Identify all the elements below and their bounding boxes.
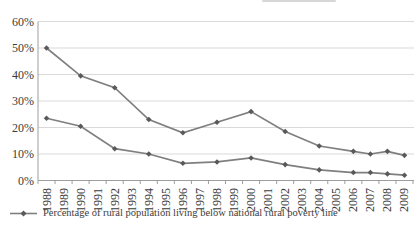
x-tick-label: 2007 xyxy=(363,188,377,212)
gridlines xyxy=(38,22,414,155)
data-point-marker xyxy=(351,170,357,176)
data-point-marker xyxy=(180,160,186,166)
x-tick-label: 2008 xyxy=(380,188,394,212)
data-point-marker xyxy=(248,155,254,161)
y-tick-label: 10% xyxy=(12,147,34,161)
legend-label: Percentage of rural population living be… xyxy=(43,206,338,220)
chart-screenshot: 0%10%20%30%40%50%60%19881989199019911992… xyxy=(0,0,420,226)
data-point-marker xyxy=(402,153,408,159)
data-point-marker xyxy=(282,162,288,168)
data-point-marker xyxy=(146,151,152,157)
data-point-marker xyxy=(44,115,50,121)
data-point-marker xyxy=(368,151,374,157)
series-upper xyxy=(44,45,408,158)
y-tick-label: 50% xyxy=(12,41,34,55)
data-point-marker xyxy=(385,171,391,177)
data-point-marker xyxy=(316,143,322,149)
y-axis-labels: 0%10%20%30%40%50%60% xyxy=(12,15,34,188)
x-tick-label: 2009 xyxy=(397,188,411,212)
x-tick-label: 2006 xyxy=(346,188,360,212)
series-line xyxy=(47,118,405,175)
data-point-marker xyxy=(402,172,408,178)
data-point-marker xyxy=(316,167,322,173)
y-tick-label: 60% xyxy=(12,15,34,29)
legend-diamond-marker xyxy=(21,210,27,216)
data-point-marker xyxy=(214,119,220,125)
series-lower xyxy=(44,115,408,178)
axes xyxy=(38,22,414,185)
legend: Percentage of rural population living be… xyxy=(10,206,338,220)
data-point-marker xyxy=(385,149,391,155)
data-point-marker xyxy=(214,159,220,165)
data-point-marker xyxy=(180,130,186,136)
y-tick-label: 20% xyxy=(12,121,34,135)
y-tick-label: 40% xyxy=(12,68,34,82)
line-diamond-legend-icon xyxy=(10,209,37,218)
data-point-marker xyxy=(368,170,374,176)
y-tick-label: 30% xyxy=(12,94,34,108)
y-tick-label: 0% xyxy=(18,174,34,188)
poverty-line-chart: 0%10%20%30%40%50%60%19881989199019911992… xyxy=(0,0,420,226)
data-point-marker xyxy=(351,149,357,155)
